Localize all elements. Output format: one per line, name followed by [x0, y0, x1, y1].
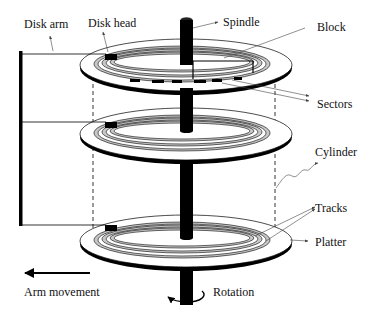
disk-drive-diagram: Disk arm Disk head Spindle Block Sectors…	[0, 0, 371, 317]
platter-bottom	[80, 160, 292, 305]
label-spindle: Spindle	[223, 15, 260, 29]
label-arm-movement: Arm movement	[24, 285, 100, 299]
label-rotation: Rotation	[213, 285, 254, 299]
label-cylinder: Cylinder	[315, 145, 357, 159]
label-disk-arm: Disk arm	[24, 17, 69, 31]
label-tracks: Tracks	[315, 201, 348, 215]
disk-head-bottom	[105, 225, 117, 231]
label-disk-head: Disk head	[88, 16, 136, 30]
label-block: Block	[317, 20, 346, 34]
disk-head-middle	[105, 122, 117, 128]
label-sectors: Sectors	[317, 97, 353, 111]
platter-middle	[80, 88, 292, 164]
label-platter: Platter	[315, 235, 346, 249]
disk-head-top	[105, 54, 117, 60]
platter-top	[80, 20, 292, 95]
